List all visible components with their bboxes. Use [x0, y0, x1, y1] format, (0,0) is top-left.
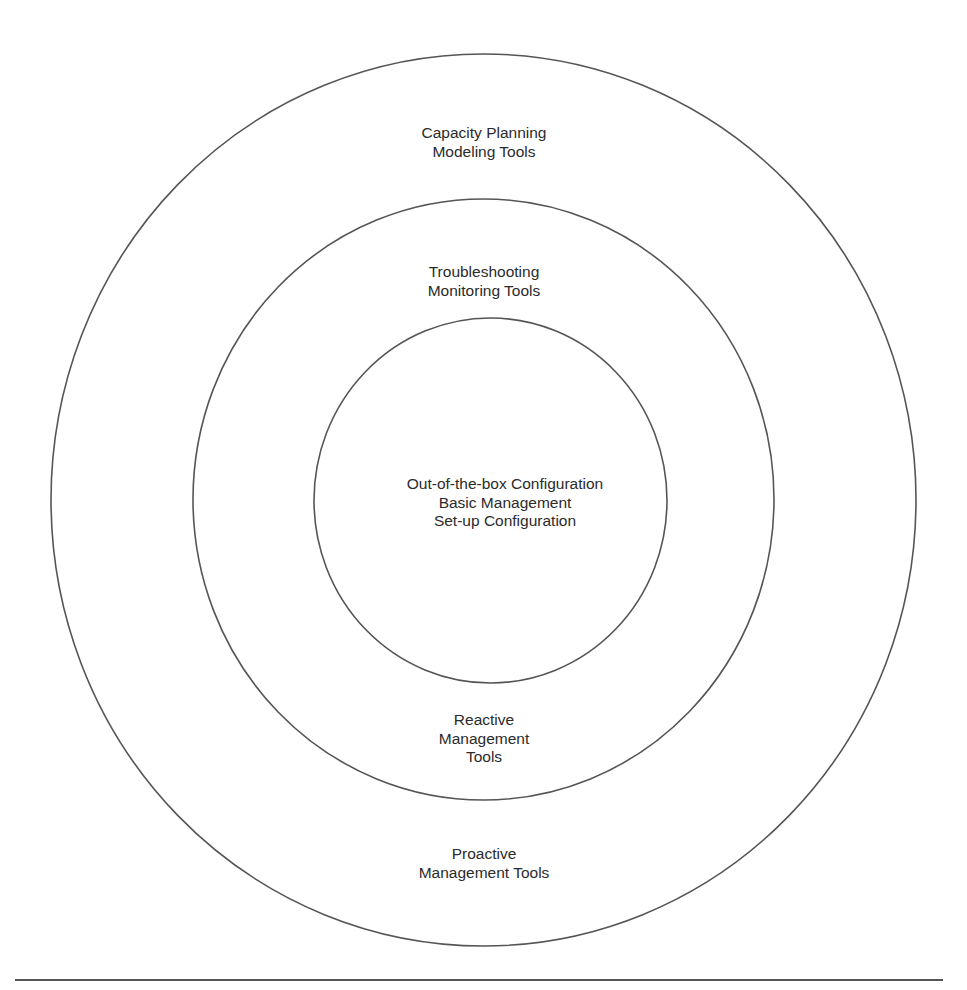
figure-divider-rule — [15, 979, 943, 981]
middle-ring-bottom-line-3: Tools — [439, 748, 529, 767]
middle-ring-top-label: Troubleshooting Monitoring Tools — [428, 263, 541, 300]
outer-ring-bottom-line-1: Proactive — [419, 845, 550, 864]
middle-ring-bottom-line-1: Reactive — [439, 711, 529, 730]
concentric-circles-diagram: Capacity Planning Modeling Tools Trouble… — [0, 0, 967, 990]
outer-ring-bottom-line-2: Management Tools — [419, 864, 550, 883]
middle-ring-top-line-1: Troubleshooting — [428, 263, 541, 282]
inner-circle-center-label: Out-of-the-box Configuration Basic Manag… — [407, 475, 603, 531]
outer-ring-top-line-2: Modeling Tools — [422, 143, 547, 162]
middle-ring-bottom-line-2: Management — [439, 730, 529, 749]
outer-ring-bottom-label: Proactive Management Tools — [419, 845, 550, 882]
inner-center-line-3: Set-up Configuration — [407, 512, 603, 531]
inner-center-line-2: Basic Management — [407, 494, 603, 513]
middle-ring-top-line-2: Monitoring Tools — [428, 282, 541, 301]
outer-ring-top-line-1: Capacity Planning — [422, 124, 547, 143]
outer-ring-top-label: Capacity Planning Modeling Tools — [422, 124, 547, 161]
middle-ring-bottom-label: Reactive Management Tools — [439, 711, 529, 767]
inner-center-line-1: Out-of-the-box Configuration — [407, 475, 603, 494]
